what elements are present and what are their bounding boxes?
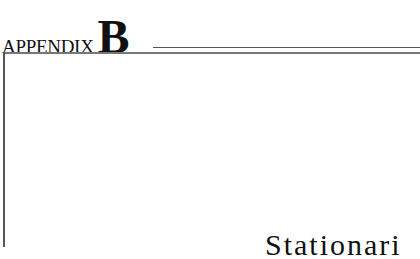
- frame-left-border: [3, 52, 5, 247]
- appendix-letter: B: [98, 18, 130, 56]
- header-rule: [153, 47, 420, 48]
- frame-top-border: [3, 52, 420, 54]
- appendix-header: APPENDIX B: [2, 18, 130, 56]
- section-title: Stationari: [265, 230, 402, 259]
